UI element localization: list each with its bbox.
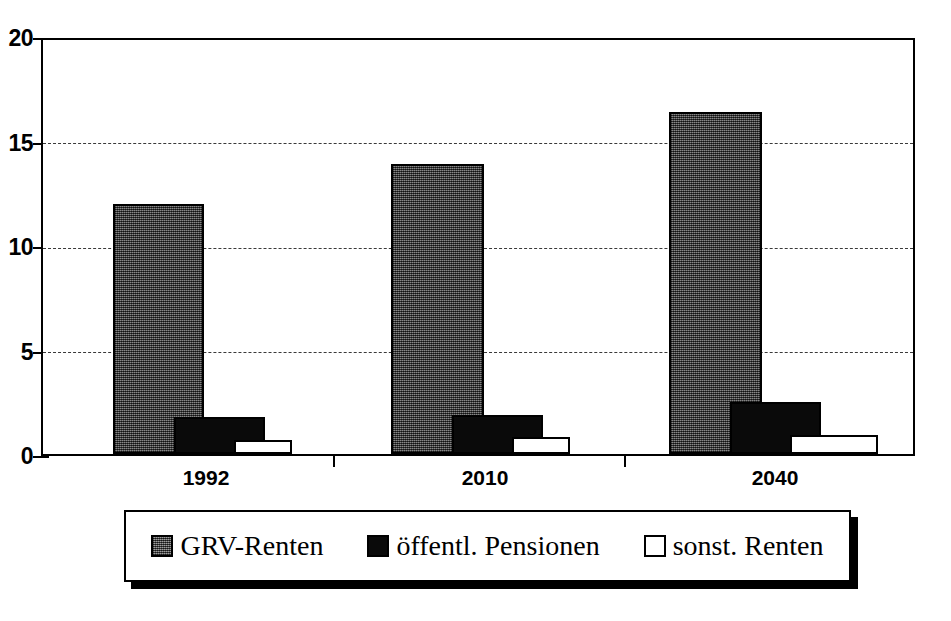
legend-swatch-oeffentl-pensionen — [367, 535, 389, 557]
y-axis-label-10: 10 — [0, 236, 33, 259]
x-axis-label-2010: 2010 — [425, 466, 545, 490]
y-axis-label-15: 15 — [0, 132, 33, 155]
legend-item-grv-renten: GRV-Renten — [151, 532, 323, 560]
x-axis-label-1992: 1992 — [146, 466, 266, 490]
y-axis-label-0: 0 — [0, 445, 33, 468]
bar-chart: 20 15 10 5 0 1992 — [0, 0, 951, 621]
legend-swatch-grv-renten — [151, 535, 173, 557]
x-axis-label-2040: 2040 — [715, 466, 835, 490]
bar-sonst-renten-2040 — [790, 435, 878, 454]
plot-area — [41, 38, 915, 456]
legend-item-oeffentl-pensionen: öffentl. Pensionen — [367, 532, 599, 560]
y-axis-label-5: 5 — [0, 341, 33, 364]
legend-item-sonst-renten: sonst. Renten — [644, 532, 824, 560]
bar-sonst-renten-1992 — [234, 440, 292, 454]
legend-label-sonst-renten: sonst. Renten — [673, 532, 824, 560]
legend-label-grv-renten: GRV-Renten — [180, 532, 323, 560]
bar-grv-renten-2010 — [391, 164, 484, 454]
y-axis-tick-0 — [33, 456, 49, 458]
bar-sonst-renten-2010 — [512, 437, 570, 454]
x-axis-tick-2 — [624, 456, 626, 467]
legend: GRV-Renten öffentl. Pensionen sonst. Ren… — [124, 510, 851, 582]
y-axis-label-20: 20 — [0, 27, 33, 50]
gridline-15 — [43, 143, 913, 144]
x-axis-tick-1 — [333, 456, 335, 467]
legend-swatch-sonst-renten — [644, 535, 666, 557]
legend-label-oeffentl-pensionen: öffentl. Pensionen — [396, 532, 599, 560]
